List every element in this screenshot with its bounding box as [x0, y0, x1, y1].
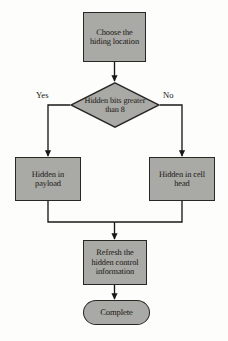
node-hidden-in-payload: Hidden in payload [15, 157, 81, 201]
flowchart-canvas: Choose the hiding location Hidden bits g… [0, 0, 228, 341]
node-payload-label: Hidden in payload [16, 170, 80, 189]
edge-decision-no-to-cellhead [160, 105, 182, 156]
node-hidden-in-cell-head: Hidden in cell head [149, 157, 215, 201]
node-choose-hiding-location: Choose the hiding location [83, 12, 146, 62]
edge-decision-yes-to-payload [48, 105, 70, 156]
edge-label-no: No [163, 90, 174, 100]
node-choose-label: Choose the hiding location [84, 28, 145, 47]
node-complete-label: Complete [98, 308, 135, 318]
node-refresh-label: Refresh the hidden control information [84, 248, 146, 276]
edge-payload-to-merge [48, 201, 115, 222]
edge-label-yes: Yes [36, 90, 49, 100]
node-complete-terminal: Complete [83, 300, 150, 325]
node-decision-hidden-bits: Hidden bits greater than 8 [70, 82, 160, 128]
node-refresh-hidden-control-information: Refresh the hidden control information [83, 240, 147, 285]
node-decision-label: Hidden bits greater than 8 [77, 96, 153, 115]
node-cellhead-label: Hidden in cell head [150, 170, 214, 189]
edge-cellhead-to-merge [115, 201, 183, 222]
